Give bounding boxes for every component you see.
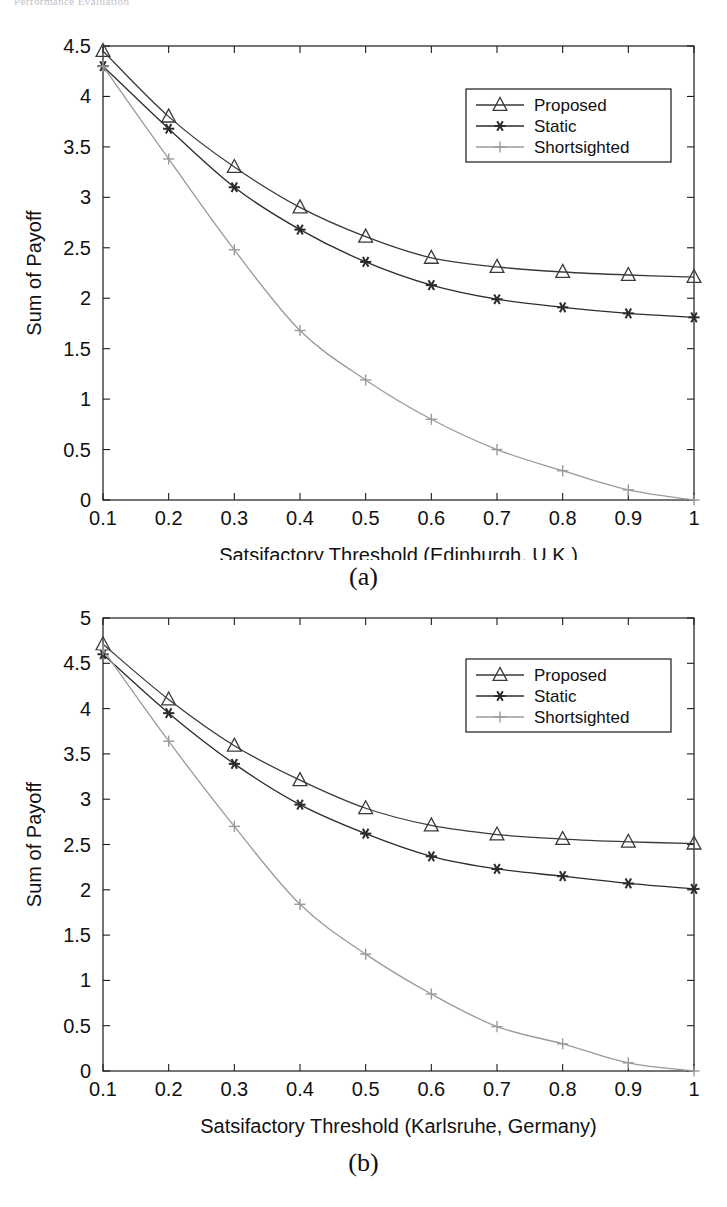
y-tick-label: 1.5 xyxy=(63,924,91,946)
legend-label: Shortsighted xyxy=(534,708,629,727)
chart-a-svg: 0.10.20.30.40.50.60.70.80.9100.511.522.5… xyxy=(0,0,727,560)
y-tick-label: 4 xyxy=(80,85,91,107)
x-tick-label: 0.5 xyxy=(352,1078,380,1100)
x-tick-label: 0.2 xyxy=(155,1078,183,1100)
triangle-marker xyxy=(293,773,307,786)
x-tick-label: 0.1 xyxy=(89,507,117,529)
x-tick-label: 1 xyxy=(688,507,699,529)
series-line xyxy=(103,51,694,277)
y-tick-label: 2.5 xyxy=(63,237,91,259)
y-axis-title: Sum of Payoff xyxy=(23,781,45,907)
series-proposed xyxy=(96,44,701,283)
x-tick-label: 0.4 xyxy=(286,1078,314,1100)
x-tick-label: 0.7 xyxy=(483,507,511,529)
figure-b-caption: (b) xyxy=(0,1148,727,1178)
legend-label: Proposed xyxy=(534,96,607,115)
y-tick-label: 0.5 xyxy=(63,1015,91,1037)
x-tick-label: 0.9 xyxy=(614,507,642,529)
x-tick-label: 0.8 xyxy=(549,507,577,529)
figure-b: 0.10.20.30.40.50.60.70.80.9100.511.522.5… xyxy=(0,600,727,1207)
y-tick-label: 3.5 xyxy=(63,136,91,158)
x-tick-label: 0.1 xyxy=(89,1078,117,1100)
legend-label: Proposed xyxy=(534,666,607,685)
x-tick-label: 0.5 xyxy=(352,507,380,529)
y-tick-label: 4 xyxy=(80,698,91,720)
chart-a-plot-area: 0.10.20.30.40.50.60.70.80.9100.511.522.5… xyxy=(0,0,727,560)
legend-label: Static xyxy=(534,687,577,706)
y-tick-label: 4.5 xyxy=(63,652,91,674)
x-tick-label: 0.3 xyxy=(220,507,248,529)
triangle-marker xyxy=(556,832,570,845)
x-tick-label: 0.4 xyxy=(286,507,314,529)
x-tick-label: 1 xyxy=(688,1078,699,1100)
chart-legend: ProposedStaticShortsighted xyxy=(466,659,671,732)
y-tick-label: 1.5 xyxy=(63,338,91,360)
y-tick-label: 3 xyxy=(80,186,91,208)
triangle-marker xyxy=(293,200,307,213)
chart-b-svg: 0.10.20.30.40.50.60.70.80.9100.511.522.5… xyxy=(0,600,727,1150)
triangle-marker xyxy=(621,268,635,281)
y-tick-label: 0 xyxy=(80,1060,91,1082)
figure-a-caption: (a) xyxy=(0,562,727,592)
y-tick-label: 2 xyxy=(80,879,91,901)
x-axis-title: Satsifactory Threshold (Karlsruhe, Germa… xyxy=(200,1115,596,1137)
y-tick-label: 5 xyxy=(80,607,91,629)
x-axis-title: Satsifactory Threshold (Edinburgh, U.K.) xyxy=(219,544,578,560)
x-tick-label: 0.6 xyxy=(417,1078,445,1100)
legend-label: Shortsighted xyxy=(534,138,629,157)
x-tick-label: 0.9 xyxy=(614,1078,642,1100)
x-tick-label: 0.6 xyxy=(417,507,445,529)
y-axis-title: Sum of Payoff xyxy=(23,210,45,336)
chart-legend: ProposedStaticShortsighted xyxy=(466,89,671,162)
x-tick-label: 0.7 xyxy=(483,1078,511,1100)
legend-label: Static xyxy=(534,117,577,136)
y-tick-label: 4.5 xyxy=(63,35,91,57)
figure-a: 0.10.20.30.40.50.60.70.80.9100.511.522.5… xyxy=(0,0,727,606)
y-tick-label: 0 xyxy=(80,489,91,511)
triangle-marker xyxy=(556,264,570,277)
x-tick-label: 0.2 xyxy=(155,507,183,529)
triangle-marker xyxy=(621,834,635,847)
y-tick-label: 2 xyxy=(80,287,91,309)
y-tick-label: 2.5 xyxy=(63,834,91,856)
triangle-marker xyxy=(359,229,373,242)
x-tick-label: 0.8 xyxy=(549,1078,577,1100)
y-tick-label: 3.5 xyxy=(63,743,91,765)
y-tick-label: 3 xyxy=(80,788,91,810)
y-tick-label: 0.5 xyxy=(63,439,91,461)
y-tick-label: 1 xyxy=(80,969,91,991)
y-tick-label: 1 xyxy=(80,388,91,410)
chart-b-plot-area: 0.10.20.30.40.50.60.70.80.9100.511.522.5… xyxy=(0,600,727,1150)
x-tick-label: 0.3 xyxy=(220,1078,248,1100)
